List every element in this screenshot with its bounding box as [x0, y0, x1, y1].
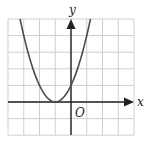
origin-label: O [75, 106, 85, 120]
x-axis-label: x [137, 95, 144, 109]
axes [8, 19, 134, 135]
parabola-chart: x y O [0, 0, 148, 141]
x-axis-arrow-icon [124, 98, 134, 107]
y-axis-label: y [68, 3, 76, 17]
y-axis-arrow-icon [67, 19, 76, 29]
